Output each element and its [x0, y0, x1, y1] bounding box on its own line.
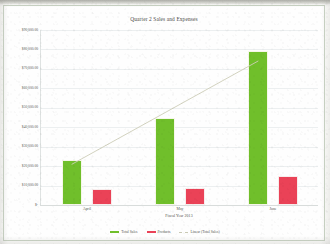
trendline-total-sales	[40, 30, 318, 205]
y-axis-line	[40, 30, 41, 206]
legend-label-products: Products	[158, 230, 171, 234]
y-tick-label: $50,000.00	[4, 105, 38, 109]
legend-item-trendline[interactable]: Linear (Total Sales)	[179, 230, 219, 234]
y-tick-label: $-	[4, 203, 38, 207]
legend-item-products[interactable]: Products	[147, 230, 171, 234]
legend-label-trendline: Linear (Total Sales)	[190, 230, 219, 234]
y-tick-label: $20,000.00	[4, 164, 38, 168]
x-tick-label-june: June	[243, 207, 303, 211]
legend-swatch-dashed-line-icon	[179, 232, 188, 233]
x-axis-title: Fiscal Year 2013	[40, 214, 318, 218]
legend-item-total-sales[interactable]: Total Sales	[110, 230, 137, 234]
y-tick-label: $60,000.00	[4, 86, 38, 90]
y-tick-label: $70,000.00	[4, 66, 38, 70]
legend-swatch-green-icon	[110, 231, 119, 234]
x-axis-line	[40, 205, 318, 206]
trendline-segment	[72, 61, 258, 164]
y-tick-label: $90,000.00	[4, 28, 38, 32]
y-tick-label: $80,000.00	[4, 47, 38, 51]
chart-legend: Total Sales Products Linear (Total Sales…	[0, 230, 330, 234]
chart-title: Quarter 2 Sales and Expenses	[4, 16, 324, 22]
plot-area	[40, 30, 318, 205]
x-tick-label-april: April	[57, 207, 117, 211]
y-tick-label: $10,000.00	[4, 183, 38, 187]
y-tick-label: $40,000.00	[4, 125, 38, 129]
scan-edge-shadow	[0, 0, 330, 4]
y-axis-tick-labels: $90,000.00 $80,000.00 $70,000.00 $60,000…	[0, 0, 38, 244]
y-tick-label: $30,000.00	[4, 144, 38, 148]
legend-label-total-sales: Total Sales	[121, 230, 137, 234]
legend-swatch-red-icon	[147, 231, 156, 234]
x-tick-label-may: May	[150, 207, 210, 211]
scanned-page: Quarter 2 Sales and Expenses $90,000.00 …	[0, 0, 330, 244]
